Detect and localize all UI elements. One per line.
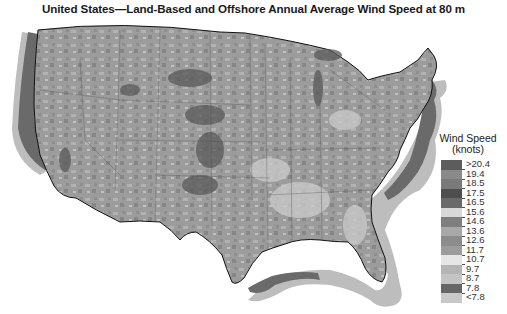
legend-title: Wind Speed (knots) [429, 133, 507, 155]
legend-label: <7.8 [466, 292, 485, 302]
legend-swatch [441, 217, 462, 227]
wind-speed-legend: >20.4 19.4 18.5 17.5 16.5 15.6 14.6 13.6… [441, 160, 507, 303]
legend-swatch [441, 274, 462, 284]
legend-item: <7.8 [441, 293, 507, 303]
legend-title-line2: (knots) [429, 144, 507, 155]
legend-swatch [441, 293, 462, 303]
legend-swatch [441, 208, 462, 218]
legend-swatch [441, 236, 462, 246]
legend-swatch [441, 189, 462, 199]
legend-swatch [441, 227, 462, 237]
legend-swatch [441, 170, 462, 180]
legend-swatch [441, 265, 462, 275]
legend-swatch [441, 255, 462, 265]
legend-swatch [441, 284, 462, 294]
legend-swatch [441, 246, 462, 256]
legend-swatch [441, 160, 462, 170]
legend-swatch [441, 179, 462, 189]
contiguous-us-landmass [34, 25, 437, 283]
us-wind-map [0, 0, 507, 314]
legend-swatch [441, 198, 462, 208]
